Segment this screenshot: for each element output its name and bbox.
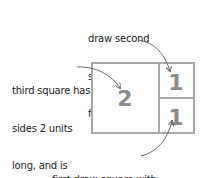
annotation-first-square: first draw square with sides 1 unit long [52, 149, 157, 178]
fibonacci-squares-diagram: draw second square above first square th… [0, 0, 207, 178]
second-square-label: 1 [162, 71, 190, 95]
third-square-label: 2 [111, 87, 139, 111]
annotation-line: first draw square with [52, 174, 157, 178]
annotation-line: draw second [88, 33, 154, 46]
annotation-line: third square has [12, 85, 90, 98]
first-square-label: 1 [162, 106, 190, 130]
annotation-line: sides 2 units [12, 123, 90, 136]
